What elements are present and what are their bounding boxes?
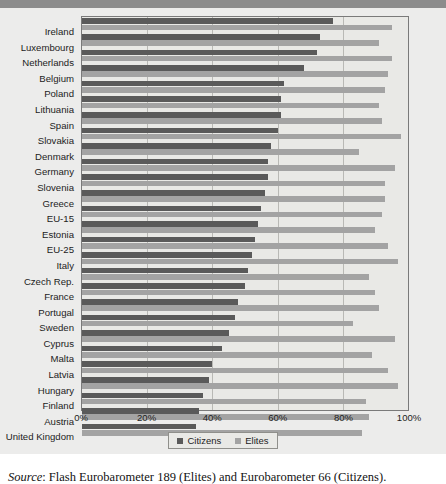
source-label: Source [8, 470, 42, 484]
category-label: Malta [0, 351, 78, 367]
bar-elites [82, 290, 375, 296]
bar-elites [82, 118, 382, 124]
category-axis-labels: IrelandLuxembourgNetherlandsBelgiumPolan… [0, 24, 78, 445]
bar-citizens [82, 206, 261, 212]
category-label: Germany [0, 164, 78, 180]
source-separator: : [42, 470, 49, 484]
bar-elites [82, 56, 392, 62]
bar-citizens [82, 330, 229, 336]
category-label: Slovenia [0, 180, 78, 196]
bar-citizens [82, 65, 304, 71]
bar-row [82, 111, 408, 127]
bar-citizens [82, 393, 203, 399]
bar-elites [82, 243, 388, 249]
category-label: Ireland [0, 24, 78, 40]
category-label: Italy [0, 258, 78, 274]
bar-elites [82, 336, 395, 342]
x-tick-label: 40% [203, 412, 222, 423]
legend-box: CitizensElites [168, 432, 277, 449]
legend-swatch-icon [177, 438, 183, 444]
bar-citizens [82, 221, 258, 227]
bar-citizens [82, 377, 209, 383]
bar-citizens [82, 190, 265, 196]
category-label: Cyprus [0, 336, 78, 352]
category-label: EU-25 [0, 242, 78, 258]
category-label: Finland [0, 398, 78, 414]
bar-elites [82, 103, 379, 109]
bar-citizens [82, 268, 248, 274]
bar-citizens [82, 174, 268, 180]
category-label: Sweden [0, 320, 78, 336]
bar-row [82, 126, 408, 142]
legend-label: Elites [245, 435, 268, 446]
bar-elites [82, 321, 353, 327]
bar-elites [82, 40, 379, 46]
bar-elites [82, 352, 372, 358]
source-text: Flash Eurobarometer 189 (Elites) and Eur… [49, 470, 386, 484]
bar-citizens [82, 34, 320, 40]
bar-row [82, 329, 408, 345]
bar-citizens [82, 283, 245, 289]
bar-row [82, 235, 408, 251]
category-label: Hungary [0, 383, 78, 399]
gridline [408, 17, 409, 410]
category-label: Denmark [0, 149, 78, 165]
bar-citizens [82, 96, 281, 102]
bar-elites [82, 227, 375, 233]
bar-elites [82, 196, 385, 202]
category-label: Latvia [0, 367, 78, 383]
bar-elites [82, 149, 359, 155]
bar-elites [82, 368, 388, 374]
bar-elites [82, 212, 382, 218]
legend-item: Citizens [177, 435, 221, 446]
bar-row [82, 79, 408, 95]
bar-citizens [82, 299, 238, 305]
category-label: France [0, 289, 78, 305]
bar-citizens [82, 361, 212, 367]
legend-label: Citizens [187, 435, 221, 446]
bar-row [82, 313, 408, 329]
bar-citizens [82, 112, 281, 118]
category-label: Greece [0, 196, 78, 212]
figure-title-band [0, 0, 446, 8]
bar-row [82, 344, 408, 360]
bar-row [82, 220, 408, 236]
bar-elites [82, 87, 385, 93]
category-label: Spain [0, 118, 78, 134]
bar-elites [82, 181, 385, 187]
bar-row [82, 360, 408, 376]
x-tick-label: 0% [74, 412, 88, 423]
bar-elites [82, 383, 398, 389]
x-axis-ticks: 0%20%40%60%80%100% [81, 412, 409, 426]
bar-row [82, 157, 408, 173]
category-label: EU-15 [0, 211, 78, 227]
bar-row [82, 17, 408, 33]
bar-elites [82, 274, 369, 280]
bar-row [82, 173, 408, 189]
category-label: Portugal [0, 305, 78, 321]
bar-row [82, 204, 408, 220]
bar-citizens [82, 237, 255, 243]
bar-citizens [82, 18, 333, 24]
bar-citizens [82, 81, 284, 87]
bar-citizens [82, 143, 271, 149]
bar-row [82, 298, 408, 314]
x-tick-label: 20% [137, 412, 156, 423]
bar-citizens [82, 252, 252, 258]
bar-elites [82, 25, 392, 31]
bar-row [82, 251, 408, 267]
category-label: Estonia [0, 227, 78, 243]
category-label: Luxembourg [0, 40, 78, 56]
bar-row [82, 142, 408, 158]
category-label: Austria [0, 414, 78, 430]
category-label: Netherlands [0, 55, 78, 71]
bar-row [82, 376, 408, 392]
bar-row [82, 267, 408, 283]
bar-citizens [82, 159, 268, 165]
category-label: Slovakia [0, 133, 78, 149]
bar-row [82, 33, 408, 49]
x-tick-label: 100% [397, 412, 421, 423]
bar-citizens [82, 50, 317, 56]
category-label: Czech Rep. [0, 274, 78, 290]
x-tick-label: 60% [268, 412, 287, 423]
